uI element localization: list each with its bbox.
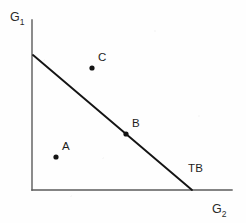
x-axis-label: G2	[212, 203, 226, 218]
data-point-label-a: A	[62, 141, 70, 153]
x-axis-label-text: G	[212, 202, 222, 216]
data-point-a	[53, 154, 58, 159]
x-axis-label-subscript: 2	[222, 209, 227, 219]
data-point-c	[89, 65, 94, 70]
data-point-label-b: B	[132, 118, 140, 130]
budget-line-label-tb: TB	[188, 163, 203, 175]
plot-area	[0, 0, 246, 223]
budget-constraint-line	[33, 55, 192, 190]
y-axis-label-text: G	[10, 10, 20, 24]
y-axis-label: G1	[10, 11, 24, 26]
data-point-b	[123, 131, 128, 136]
data-point-label-c: C	[98, 52, 106, 64]
y-axis-label-subscript: 1	[20, 17, 25, 27]
budget-constraint-figure: G1 G2 A B C TB	[0, 0, 246, 223]
